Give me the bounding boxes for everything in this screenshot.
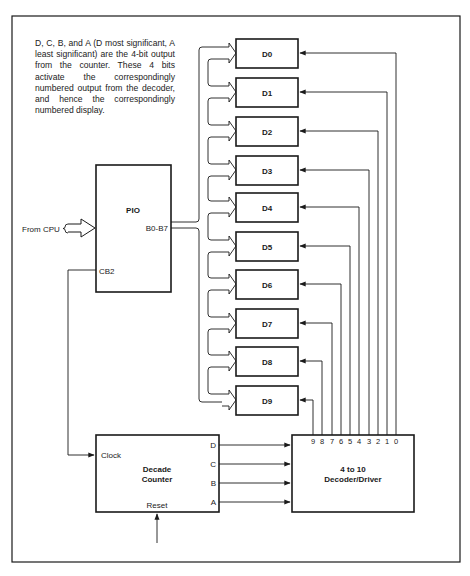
pio-port-label: B0-B7 [146, 224, 169, 233]
pio-bus-rails [171, 47, 222, 402]
decoder-pin-5: 5 [348, 437, 352, 446]
display-label: D2 [262, 128, 273, 137]
display-label: D7 [262, 320, 273, 329]
display-label: D5 [262, 243, 273, 252]
decoder-title-line1: 4 to 10 [340, 465, 366, 474]
counter-title-line1: Decade [143, 465, 172, 474]
reset-label: Reset [147, 501, 169, 510]
display-d0: D0 [236, 39, 298, 68]
display-label: D6 [262, 281, 273, 290]
decoder-pin-8: 8 [320, 437, 324, 446]
display-d4: D4 [236, 193, 298, 222]
cb2-to-clock-line [68, 270, 96, 455]
display-bus-connectors [208, 59, 222, 394]
decade-counter-block: Clock Decade Counter Reset D C B A [96, 435, 219, 512]
pio-title: PIO [126, 206, 140, 215]
line-pin-2 [300, 131, 378, 435]
from-cpu-bus-arrow: From CPU [22, 219, 95, 237]
decoder-pin-9: 9 [311, 437, 315, 446]
display-d7: D7 [236, 309, 298, 338]
display-d9: D9 [236, 386, 298, 415]
decoder-pin-2: 2 [376, 437, 380, 446]
counter-to-decoder-lines [219, 445, 290, 502]
line-pin-8 [300, 361, 322, 435]
output-a-label: A [211, 498, 217, 507]
decoder-pin-0: 0 [394, 437, 398, 446]
output-d-label: D [210, 441, 216, 450]
display-d8: D8 [236, 347, 298, 376]
display-d6: D6 [236, 270, 298, 299]
display-d5: D5 [236, 232, 298, 261]
line-pin-0 [300, 53, 396, 435]
display-label: D3 [262, 167, 273, 176]
display-d2: D2 [236, 117, 298, 146]
pio-block: PIO B0-B7 CB2 [96, 165, 171, 292]
decoder-output-lines [300, 53, 396, 435]
line-pin-9 [300, 400, 313, 435]
decoder-pin-1: 1 [385, 437, 389, 446]
clock-label: Clock [101, 451, 122, 460]
decoder-block: 9 8 7 6 5 4 3 2 1 0 4 to 10 Decoder/Driv… [292, 435, 414, 512]
display-d1: D1 [236, 78, 298, 107]
decoder-pin-3: 3 [367, 437, 371, 446]
decoder-pin-7: 7 [330, 437, 334, 446]
counter-title-line2: Counter [142, 475, 173, 484]
decoder-title-line2: Decoder/Driver [324, 475, 381, 484]
display-d3: D3 [236, 156, 298, 185]
display-label: D9 [262, 397, 273, 406]
line-pin-6 [300, 284, 341, 435]
from-cpu-label: From CPU [22, 225, 60, 234]
output-b-label: B [211, 479, 216, 488]
explanatory-note: D, C, B, and A (D most significant, A le… [35, 38, 175, 116]
output-c-label: C [210, 460, 216, 469]
line-pin-7 [300, 323, 332, 435]
line-pin-5 [300, 246, 350, 435]
display-label: D0 [262, 50, 273, 59]
display-label: D1 [262, 89, 273, 98]
display-label: D8 [262, 358, 273, 367]
display-bus-arrows [222, 43, 236, 410]
display-label: D4 [262, 204, 273, 213]
line-pin-1 [300, 92, 387, 435]
pio-cb2-label: CB2 [99, 267, 115, 276]
decoder-pin-4: 4 [357, 437, 361, 446]
decoder-pin-6: 6 [339, 437, 343, 446]
